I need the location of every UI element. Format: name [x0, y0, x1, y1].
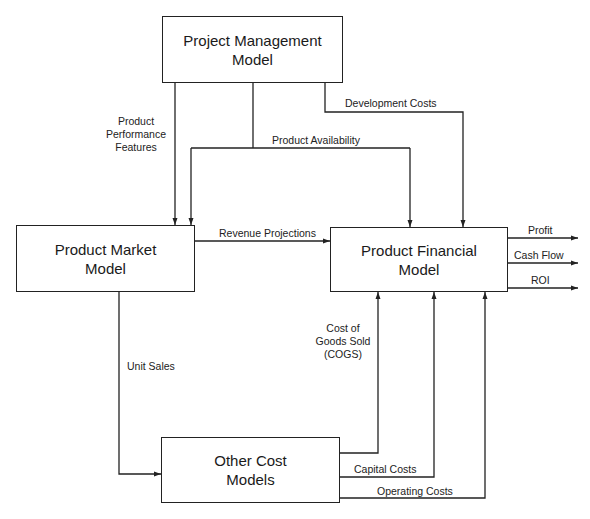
label-operating-costs: Operating Costs — [377, 485, 453, 498]
node-label-line1: Other Cost — [214, 451, 287, 470]
node-other-cost-models: Other Cost Models — [161, 437, 340, 503]
node-product-market-model: Product Market Model — [16, 225, 195, 292]
label-line: Cost of — [313, 322, 373, 335]
label-development-costs: Development Costs — [345, 97, 437, 110]
label-unit-sales: Unit Sales — [127, 360, 175, 373]
label-line: Goods Sold — [313, 335, 373, 348]
node-label-line1: Project Management — [183, 31, 321, 50]
label-cash-flow: Cash Flow — [514, 249, 564, 262]
label-product-performance-features: Product Performance Features — [104, 115, 168, 154]
node-label-line2: Model — [55, 259, 157, 278]
node-label-line2: Models — [214, 470, 287, 489]
node-label-line2: Model — [361, 260, 477, 279]
label-capital-costs: Capital Costs — [354, 463, 416, 476]
label-line: (COGS) — [313, 348, 373, 361]
label-profit: Profit — [528, 224, 553, 237]
node-product-financial-model: Product Financial Model — [330, 227, 508, 292]
label-line: Performance — [104, 128, 168, 141]
node-project-management-model: Project Management Model — [162, 16, 343, 83]
node-label-line1: Product Market — [55, 240, 157, 259]
node-label-line1: Product Financial — [361, 241, 477, 260]
label-product-availability: Product Availability — [272, 134, 360, 147]
edge-cogs — [340, 292, 378, 453]
label-line: Product — [104, 115, 168, 128]
edge-capital-costs — [340, 292, 434, 477]
label-roi: ROI — [531, 274, 550, 287]
label-cogs: Cost of Goods Sold (COGS) — [313, 322, 373, 361]
label-line: Features — [104, 141, 168, 154]
label-revenue-projections: Revenue Projections — [219, 227, 316, 240]
edge-unit-sales — [119, 292, 161, 474]
node-label-line2: Model — [183, 50, 321, 69]
